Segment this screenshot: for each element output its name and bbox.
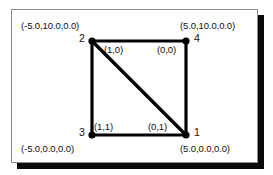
node-label-4: 4 [194, 33, 200, 44]
node-marker-1 [182, 131, 189, 138]
edge-label-bottom-left-inner: (1,1) [94, 121, 113, 132]
edge-label-top-left-inner: (1,0) [104, 44, 123, 55]
node-label-2: 2 [79, 33, 85, 44]
edge-label-bottom-right-inner: (0,1) [148, 121, 167, 132]
node-label-3: 3 [79, 127, 85, 138]
edge-label-top-right-inner: (0,0) [157, 44, 176, 55]
node-marker-2 [88, 37, 95, 44]
node-marker-3 [88, 131, 95, 138]
corner-coordinate-bottom-right: (5.0,0.0,0.0) [180, 143, 230, 154]
figure-root: (-5.0,10.0,0.0) (5.0,10.0,0.0) (-5.0,0.0… [0, 0, 273, 175]
corner-coordinate-bottom-left: (-5.0,0.0,0.0) [21, 143, 74, 154]
corner-coordinate-top-right: (5.0,10.0,0.0) [180, 20, 235, 31]
node-label-1: 1 [194, 127, 200, 138]
node-marker-4 [182, 37, 189, 44]
corner-coordinate-top-left: (-5.0,10.0,0.0) [21, 20, 79, 31]
